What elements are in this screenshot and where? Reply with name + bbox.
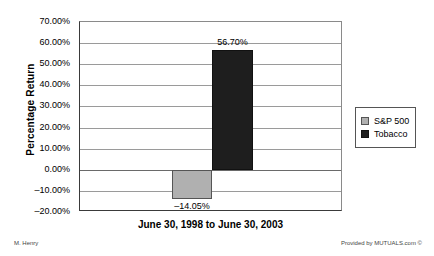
legend-item-tobacco[interactable]: Tobacco: [361, 129, 409, 139]
legend-item-sp500[interactable]: S&P 500: [361, 116, 409, 126]
legend-swatch-icon-tobacco: [361, 130, 369, 138]
y-tick-label-50: 50.00%: [39, 58, 70, 68]
bar-tobacco[interactable]: [212, 50, 253, 170]
legend-label-sp500: S&P 500: [374, 116, 409, 126]
x-axis-title: June 30, 1998 to June 30, 2003: [79, 219, 342, 230]
y-axis-tick-labels: 70.00%60.00%50.00%40.00%30.00%20.00%10.0…: [0, 21, 76, 211]
y-tick-label-20: 20.00%: [39, 122, 70, 132]
chart-figure: Percentage Return 70.00%60.00%50.00%40.0…: [0, 0, 434, 256]
footer-credit: Provided by MUTUALS.com ©: [341, 240, 422, 246]
y-tick-label-70: 70.00%: [39, 16, 70, 26]
y-tick-label-10: 10.00%: [39, 143, 70, 153]
bar-sp500[interactable]: [172, 170, 212, 200]
chart-legend: S&P 500 Tobacco: [355, 107, 416, 148]
footer-author: M. Henry: [14, 240, 38, 246]
y-tick-label-0: 0.00%: [44, 164, 70, 174]
bar-value-label-tobacco: 56.70%: [198, 37, 267, 47]
y-tick-label-60: 60.00%: [39, 37, 70, 47]
y-tick-label-40: 40.00%: [39, 79, 70, 89]
legend-label-tobacco: Tobacco: [374, 129, 408, 139]
bar-value-label-sp500: –14.05%: [158, 201, 226, 211]
plot-area: –14.05%56.70%: [79, 21, 342, 211]
y-tick-label--20: –20.00%: [34, 206, 70, 216]
legend-swatch-icon-sp500: [361, 117, 369, 125]
y-tick-label-30: 30.00%: [39, 100, 70, 110]
y-tick-label--10: –10.00%: [34, 185, 70, 195]
bars-layer: –14.05%56.70%: [80, 22, 341, 210]
gridline--20: [80, 212, 341, 213]
